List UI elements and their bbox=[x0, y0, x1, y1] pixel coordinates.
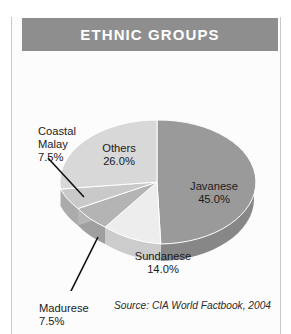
pie-chart: Others 26.0% Javanese 45.0% Sundanese 14… bbox=[12, 51, 280, 291]
page-title: ETHNIC GROUPS bbox=[80, 26, 219, 43]
pie-label-sundanese: Sundanese 14.0% bbox=[125, 250, 201, 276]
pie-label-javanese: Javanese 45.0% bbox=[180, 180, 248, 206]
leader-line-madurese bbox=[67, 237, 98, 291]
pie-label-sundanese-value: 14.0% bbox=[125, 263, 201, 276]
chart-title-bar: ETHNIC GROUPS bbox=[22, 18, 278, 51]
pie-label-coastal-malay-line2: Malay bbox=[38, 138, 92, 151]
pie-label-coastal-malay-line1: Coastal bbox=[38, 125, 76, 137]
pie-label-sundanese-name: Sundanese bbox=[135, 250, 192, 262]
pie-label-javanese-name: Javanese bbox=[190, 180, 238, 192]
chart-source-note: Source: CIA World Factbook, 2004 bbox=[22, 300, 271, 311]
pie-label-others-name: Others bbox=[102, 142, 136, 154]
pie-label-others: Others 26.0% bbox=[87, 142, 151, 168]
pie-label-coastal-malay: Coastal Malay 7.5% bbox=[38, 125, 92, 165]
chart-screenshot: ETHNIC GROUPS bbox=[0, 0, 291, 334]
pie-label-coastal-malay-value: 7.5% bbox=[38, 151, 92, 164]
pie-label-madurese-value: 7.5% bbox=[39, 315, 111, 328]
pie-label-others-value: 26.0% bbox=[87, 155, 151, 168]
pie-label-javanese-value: 45.0% bbox=[180, 193, 248, 206]
